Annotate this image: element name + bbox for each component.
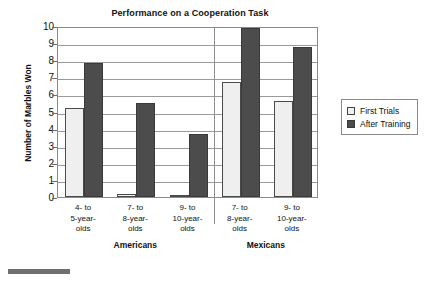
- y-tick-mark: [52, 164, 57, 165]
- y-tick-label: 9: [28, 39, 54, 49]
- x-category-label-line: 9- to: [161, 203, 213, 214]
- legend-label-after-training: After Training: [360, 119, 411, 129]
- x-category-label-line: olds: [161, 224, 213, 235]
- y-tick-label: 1: [28, 176, 54, 186]
- bar-first-3: [222, 82, 241, 197]
- bar-after-2: [189, 134, 208, 197]
- x-category-label-1: 7- to8-year-olds: [109, 203, 161, 235]
- chart-legend: First Trials After Training: [341, 99, 418, 135]
- bar-first-2: [170, 195, 189, 197]
- x-category-label-2: 9- to10-year-olds: [161, 203, 213, 235]
- y-tick-mark: [52, 198, 57, 199]
- x-category-label-line: 7- to: [214, 203, 266, 214]
- x-category-label-line: olds: [109, 224, 161, 235]
- plot-area: [57, 27, 318, 198]
- y-tick-label: 4: [28, 125, 54, 135]
- x-category-label-line: 9- to: [266, 203, 318, 214]
- x-category-label-line: 10-year-: [161, 214, 213, 225]
- legend-item-first-trials[interactable]: First Trials: [347, 104, 411, 117]
- legend-label-first-trials: First Trials: [360, 106, 399, 116]
- bar-first-0: [65, 108, 84, 197]
- y-tick-mark: [52, 61, 57, 62]
- bar-first-4: [274, 101, 293, 197]
- y-tick-label: 6: [28, 90, 54, 100]
- bar-after-3: [241, 28, 260, 197]
- supergroup-label-americans: Americans: [57, 240, 214, 250]
- y-tick-label: 5: [28, 108, 54, 118]
- x-category-label-4: 9- to10-year-olds: [266, 203, 318, 235]
- x-category-label-line: 8-year-: [109, 214, 161, 225]
- legend-swatch-after-training: [347, 120, 355, 128]
- x-category-label-line: 4- to: [57, 203, 109, 214]
- x-category-label-line: olds: [214, 224, 266, 235]
- supergroup-label-mexicans: Mexicans: [214, 240, 318, 250]
- x-category-label-line: 5-year-: [57, 214, 109, 225]
- y-tick-label: 0: [28, 193, 54, 203]
- x-category-label-line: 7- to: [109, 203, 161, 214]
- y-tick-label: 2: [28, 159, 54, 169]
- x-category-label-line: olds: [57, 224, 109, 235]
- footer-rule: [8, 269, 70, 274]
- x-category-label-0: 4- to5-year-olds: [57, 203, 109, 235]
- legend-item-after-training[interactable]: After Training: [347, 117, 411, 130]
- y-tick-label: 10: [28, 22, 54, 32]
- y-tick-label: 3: [28, 142, 54, 152]
- x-category-label-3: 7- to8-year-olds: [214, 203, 266, 235]
- y-tick-mark: [52, 44, 57, 45]
- y-tick-mark: [52, 27, 57, 28]
- y-tick-mark: [52, 181, 57, 182]
- chart-figure: Performance on a Cooperation Task Number…: [0, 0, 439, 284]
- group-divider: [214, 28, 215, 224]
- y-tick-mark: [52, 113, 57, 114]
- x-category-label-line: 8-year-: [214, 214, 266, 225]
- x-category-label-line: 10-year-: [266, 214, 318, 225]
- y-tick-mark: [52, 130, 57, 131]
- y-tick-mark: [52, 95, 57, 96]
- bar-after-0: [84, 63, 103, 197]
- legend-swatch-first-trials: [347, 107, 355, 115]
- chart-title: Performance on a Cooperation Task: [55, 8, 325, 18]
- y-tick-label: 8: [28, 56, 54, 66]
- bar-after-4: [293, 47, 312, 197]
- bar-first-1: [117, 194, 136, 197]
- y-tick-mark: [52, 147, 57, 148]
- gridline: [58, 45, 317, 46]
- x-category-label-line: olds: [266, 224, 318, 235]
- bar-after-1: [136, 103, 155, 197]
- y-tick-label: 7: [28, 73, 54, 83]
- y-tick-mark: [52, 78, 57, 79]
